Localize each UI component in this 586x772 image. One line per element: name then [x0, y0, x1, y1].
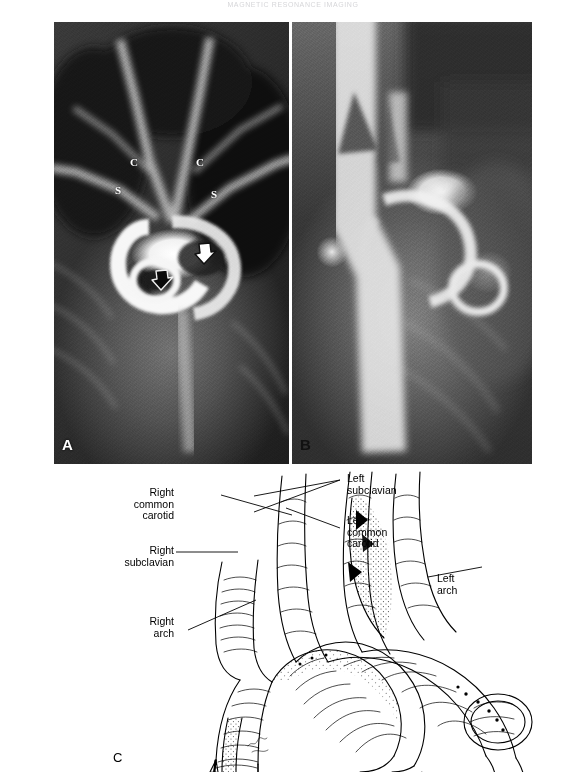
- right-arch-label: Right arch: [108, 616, 174, 639]
- double-aortic-arch-drawing: [0, 468, 586, 772]
- right-subclavian-label: Right subclavian: [72, 545, 174, 568]
- annotation-left-common-carotid: C: [196, 156, 204, 168]
- panel-b-label: B: [300, 436, 311, 453]
- annotation-right-subclavian: S: [115, 184, 121, 196]
- left-arch-label: Left arch: [437, 573, 507, 596]
- panel-c-label: C: [113, 750, 122, 765]
- panel-b-film-grain: [292, 22, 532, 464]
- panel-a-film-grain: [54, 22, 289, 464]
- annotation-right-common-carotid: C: [130, 156, 138, 168]
- left-common-carotid-label: Left common carotid: [347, 515, 437, 550]
- radiograph-plate-row: C C S S A: [54, 22, 532, 464]
- panel-b: B: [292, 22, 532, 464]
- left-subclavian-label: Left subclavian: [347, 473, 437, 496]
- leader-lines: [176, 480, 482, 630]
- right-common-carotid-label: Right common carotid: [108, 487, 174, 522]
- panel-a: C C S S A: [54, 22, 289, 464]
- running-head: MAGNETIC RESONANCE IMAGING: [0, 0, 586, 9]
- annotation-left-subclavian: S: [211, 188, 217, 200]
- panel-a-label: A: [62, 436, 73, 453]
- panel-c: Right common carotid Right subclavian Ri…: [0, 468, 586, 772]
